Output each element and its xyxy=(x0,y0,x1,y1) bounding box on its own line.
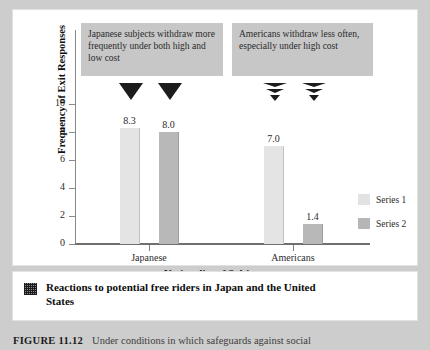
y-tick-label: 2 xyxy=(60,209,65,220)
y-tick-10: 10 xyxy=(69,104,75,105)
y-tick-8: 8 xyxy=(69,132,75,133)
bar-japanese-series1: 8.3 xyxy=(120,128,140,244)
bar-value-label: 8.0 xyxy=(159,119,178,130)
x-category-americans: Americans xyxy=(253,252,333,263)
solid-down-triangle-icon xyxy=(119,83,143,100)
caption-panel: Reactions to potential free riders in Ja… xyxy=(13,272,417,320)
bar-value-label: 8.3 xyxy=(120,115,139,126)
solid-down-triangle-icon xyxy=(158,83,182,100)
y-tick-0: 0 xyxy=(69,244,75,245)
bar-americans-series2: 1.4 xyxy=(303,224,323,244)
striped-down-triangle-icon xyxy=(263,83,287,102)
y-tick-2: 2 xyxy=(69,216,75,217)
legend-label-series2: Series 2 xyxy=(376,219,406,229)
figure-note-body: Under conditions in which safeguards aga… xyxy=(92,335,311,346)
callout-americans: Americans withdraw less often, especiall… xyxy=(232,23,373,76)
figure-screenshot: Japanese subjects withdraw more frequent… xyxy=(0,0,430,350)
legend-swatch-series1 xyxy=(358,194,370,205)
chart-legend: Series 1 Series 2 xyxy=(358,194,406,242)
bar-value-label: 7.0 xyxy=(264,133,283,144)
caption-text: Reactions to potential free riders in Ja… xyxy=(46,281,346,308)
y-tick-label: 4 xyxy=(60,181,65,192)
y-axis-line xyxy=(75,30,76,244)
legend-item-series2[interactable]: Series 2 xyxy=(358,218,406,229)
legend-item-series1[interactable]: Series 1 xyxy=(358,194,406,205)
bar-americans-series1: 7.0 xyxy=(264,146,284,244)
y-tick-4: 4 xyxy=(69,188,75,189)
x-category-japanese: Japanese xyxy=(109,252,189,263)
legend-swatch-series2 xyxy=(358,218,370,229)
y-axis-title: Frequency of Exit Responses xyxy=(56,10,67,170)
figure-note-label: FIGURE 11.12 xyxy=(13,335,83,346)
x-tick-americans xyxy=(293,245,294,251)
callout-japanese: Japanese subjects withdraw more frequent… xyxy=(81,23,223,76)
x-tick-japanese xyxy=(149,245,150,251)
striped-down-triangle-icon xyxy=(302,83,326,102)
legend-label-series1: Series 1 xyxy=(376,195,406,205)
bar-japanese-series2: 8.0 xyxy=(159,132,179,244)
bar-value-label: 1.4 xyxy=(303,211,322,222)
y-tick-label: 0 xyxy=(60,237,65,248)
chart-panel: Japanese subjects withdraw more frequent… xyxy=(13,10,417,265)
y-tick-6: 6 xyxy=(69,160,75,161)
dither-square-icon xyxy=(24,283,37,295)
figure-note: FIGURE 11.12Under conditions in which sa… xyxy=(13,334,417,347)
